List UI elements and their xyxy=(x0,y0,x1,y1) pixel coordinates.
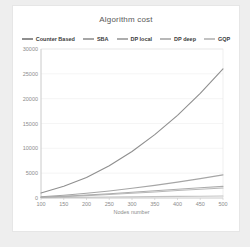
series-line-counter-based xyxy=(41,69,223,193)
y-tick-labels: 050001000015000200002500030000 xyxy=(23,46,38,201)
svg-text:5000: 5000 xyxy=(26,170,38,176)
svg-text:350: 350 xyxy=(150,201,159,207)
svg-text:15000: 15000 xyxy=(23,121,38,127)
svg-text:450: 450 xyxy=(196,201,205,207)
svg-text:150: 150 xyxy=(59,201,68,207)
svg-text:25000: 25000 xyxy=(23,71,38,77)
svg-text:300: 300 xyxy=(127,201,136,207)
chart-plot-area: 0500010000150002000025000300001001502002… xyxy=(13,6,241,233)
svg-text:20000: 20000 xyxy=(23,96,38,102)
x-axis-title: Nodes number xyxy=(40,209,223,215)
svg-text:100: 100 xyxy=(36,201,45,207)
svg-text:10000: 10000 xyxy=(23,145,38,151)
svg-text:250: 250 xyxy=(105,201,114,207)
series-lines xyxy=(41,69,223,198)
gridlines xyxy=(41,49,223,173)
svg-text:400: 400 xyxy=(173,201,182,207)
svg-text:30000: 30000 xyxy=(23,46,38,52)
svg-text:200: 200 xyxy=(82,201,91,207)
axes xyxy=(41,49,223,200)
svg-text:500: 500 xyxy=(218,201,227,207)
chart-panel: Algorithm cost Counter BasedSBADP localD… xyxy=(12,5,240,232)
x-tick-labels: 100150200250300350400450500 xyxy=(36,201,227,207)
